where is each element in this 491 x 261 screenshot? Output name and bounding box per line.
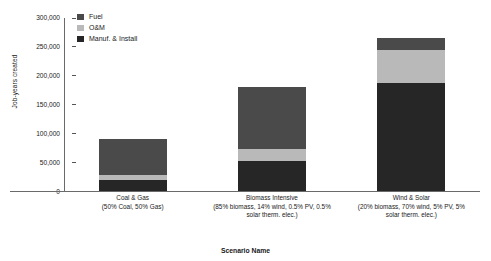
y-tick-label: 300,000: [16, 14, 60, 21]
legend-label: Manuf. & Install: [89, 35, 137, 42]
bar-segment-fuel: [238, 87, 306, 149]
bar-segment-manuf-install: [377, 83, 445, 191]
y-tick-label: 100,000: [16, 130, 60, 137]
legend-item: Fuel: [77, 13, 137, 20]
legend-label: O&M: [89, 24, 105, 31]
category-name: Coal & Gas: [72, 194, 194, 203]
category-label: Biomass Intensive(85% biomass, 14% wind,…: [211, 194, 333, 220]
legend-swatch-icon: [77, 25, 84, 31]
y-tick-label: 50,000: [16, 159, 60, 166]
category-name: Wind & Solar: [350, 194, 472, 203]
legend-item: Manuf. & Install: [77, 35, 137, 42]
bar-segment-fuel: [377, 38, 445, 50]
category-sublabel: (85% biomass, 14% wind, 0.5% PV, 0.5% so…: [211, 203, 333, 220]
bar-biomass-intensive: [238, 87, 306, 191]
y-tick-label: 200,000: [16, 72, 60, 79]
category-label: Coal & Gas(50% Coal, 50% Gas): [72, 194, 194, 211]
category-sublabel: (50% Coal, 50% Gas): [72, 203, 194, 212]
category-sublabel: (20% biomass, 70% wind, 5% PV, 5% solar …: [350, 203, 472, 220]
x-axis-category-labels: Coal & Gas(50% Coal, 50% Gas)Biomass Int…: [64, 194, 480, 244]
y-tick-label: 250,000: [16, 43, 60, 50]
bar-segment-manuf-install: [238, 161, 306, 191]
x-axis-title: Scenario Name: [0, 247, 491, 254]
legend-label: Fuel: [89, 13, 103, 20]
bar-wind-solar: [377, 38, 445, 191]
bar-segment-manuf-install: [99, 180, 167, 191]
bar-segment-o-m: [377, 50, 445, 83]
legend-item: O&M: [77, 24, 137, 31]
stacked-bar-chart: Job-years created 300,000250,000200,0001…: [0, 0, 491, 261]
y-axis-ticks: 300,000250,000200,000150,000100,00050,00…: [12, 0, 60, 261]
legend-swatch-icon: [77, 14, 84, 20]
y-tick-label: 150,000: [16, 101, 60, 108]
bar-segment-fuel: [99, 139, 167, 175]
bar-segment-o-m: [238, 149, 306, 161]
x-axis-line: [10, 191, 480, 192]
bar-coal-gas: [99, 139, 167, 191]
category-label: Wind & Solar(20% biomass, 70% wind, 5% P…: [350, 194, 472, 220]
legend-swatch-icon: [77, 36, 84, 42]
chart-legend: FuelO&MManuf. & Install: [77, 13, 137, 42]
category-name: Biomass Intensive: [211, 194, 333, 203]
